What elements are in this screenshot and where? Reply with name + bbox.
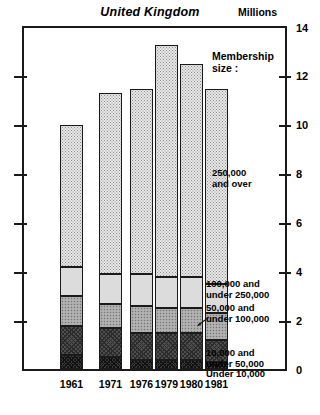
bar-segment (180, 360, 203, 370)
bar-segment (60, 326, 83, 355)
bar-segment (180, 64, 203, 277)
y-tick-left-10 (14, 125, 27, 127)
y-tick-label-8: 8 (296, 168, 302, 180)
y-tick-label-12: 12 (296, 70, 308, 82)
chart-container: United Kingdom Millions 02468101214 1961… (0, 0, 320, 415)
legend-label-50000-to-100000: 50,000 and under 100,000 (206, 303, 269, 324)
bar-segment (60, 355, 83, 370)
legend-label-over-250000: 250,000 and over (212, 168, 252, 189)
bar-segment (180, 333, 203, 360)
y-tick-right-12 (279, 76, 291, 78)
y-tick-label-4: 4 (296, 266, 302, 278)
bar-segment (155, 360, 178, 370)
bar-segment (99, 274, 122, 303)
bar-segment (155, 277, 178, 309)
x-axis-label-1971: 1971 (99, 378, 122, 390)
bar-segment (130, 360, 153, 370)
x-axis-label-1981: 1981 (205, 378, 228, 390)
bar-segment (155, 45, 178, 277)
bar-segment (130, 89, 153, 275)
bar-segment (60, 296, 83, 325)
y-tick-label-2: 2 (296, 315, 302, 327)
bar-segment (180, 277, 203, 309)
x-axis-label-1979: 1979 (155, 378, 178, 390)
y-tick-right-10 (279, 125, 291, 127)
x-axis-label-1976: 1976 (130, 378, 153, 390)
y-tick-label-14: 14 (296, 22, 308, 34)
bar-1971 (99, 0, 122, 415)
bar-1979 (155, 0, 178, 415)
x-axis-label-1980: 1980 (180, 378, 203, 390)
y-tick-left-4 (14, 272, 27, 274)
y-axis-units-label: Millions (238, 6, 277, 18)
y-tick-right-4 (279, 272, 291, 274)
y-tick-label-0: 0 (296, 364, 302, 376)
bar-1961 (60, 0, 83, 415)
bar-1976 (130, 0, 153, 415)
y-tick-left-6 (14, 223, 27, 225)
x-axis-label-1961: 1961 (60, 378, 83, 390)
bar-segment (99, 304, 122, 328)
bar-segment (99, 328, 122, 357)
legend-label-100000-to-250000: 100,000 and under 250,000 (206, 279, 269, 300)
y-tick-left-2 (14, 321, 27, 323)
bar-segment (130, 306, 153, 333)
bar-segment (99, 357, 122, 369)
bar-segment (180, 308, 203, 332)
y-tick-label-10: 10 (296, 119, 308, 131)
y-tick-left-8 (14, 174, 27, 176)
bar-segment (155, 308, 178, 332)
y-tick-right-2 (279, 321, 291, 323)
y-tick-right-8 (279, 174, 291, 176)
legend-heading: Membership size : (212, 50, 274, 74)
bar-segment (155, 333, 178, 360)
legend-label-under-10000: Under 10,000 (206, 369, 265, 380)
bar-segment (130, 333, 153, 360)
y-tick-left-12 (14, 76, 27, 78)
bar-segment (60, 267, 83, 296)
bar-segment (99, 93, 122, 274)
legend-label-10000-to-50000: 10,000 and under 50,000 (206, 348, 264, 369)
y-tick-label-6: 6 (296, 217, 302, 229)
bar-1980 (180, 0, 203, 415)
y-tick-right-6 (279, 223, 291, 225)
bar-segment (130, 274, 153, 306)
bar-segment (60, 125, 83, 267)
